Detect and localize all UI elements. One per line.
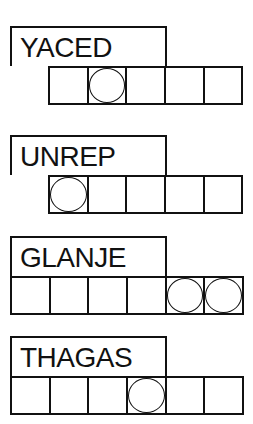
cell-letter (50, 177, 87, 212)
cell-letter (205, 68, 242, 103)
scrambled-word-box: YACED (10, 26, 167, 66)
answer-cell[interactable] (89, 177, 128, 212)
scrambled-word-box: GLANJE (10, 236, 167, 276)
answer-cell[interactable] (51, 278, 90, 313)
answer-cell[interactable] (167, 378, 206, 413)
answer-cell[interactable] (12, 378, 51, 413)
scrambled-word: UNREP (12, 137, 165, 177)
cell-letter (166, 68, 203, 103)
answer-cell-circled[interactable] (205, 278, 244, 313)
answer-cells (48, 66, 243, 105)
scrambled-word: THAGAS (12, 338, 165, 378)
answer-cell[interactable] (89, 378, 128, 413)
cell-letter (128, 378, 165, 413)
answer-cells (10, 276, 244, 315)
answer-cell[interactable] (89, 278, 128, 313)
answer-cell[interactable] (205, 378, 244, 413)
answer-cell[interactable] (128, 278, 167, 313)
answer-cell-circled[interactable] (89, 68, 128, 103)
answer-cell-circled[interactable] (167, 278, 206, 313)
answer-cell[interactable] (50, 68, 89, 103)
answer-cell[interactable] (12, 278, 51, 313)
answer-cell[interactable] (166, 68, 205, 103)
answer-cells (10, 376, 244, 415)
scrambled-word-box: THAGAS (10, 336, 167, 376)
scrambled-word: YACED (12, 28, 165, 68)
cell-letter (12, 278, 49, 313)
answer-cell[interactable] (127, 68, 166, 103)
cell-letter (127, 68, 164, 103)
cell-letter (167, 278, 204, 313)
answer-cell-circled[interactable] (50, 177, 89, 212)
cell-letter (166, 177, 203, 212)
answer-cell-circled[interactable] (128, 378, 167, 413)
scrambled-word-box: UNREP (10, 135, 167, 175)
cell-letter (205, 378, 242, 413)
cell-letter (89, 378, 126, 413)
cell-letter (167, 378, 204, 413)
answer-cell[interactable] (127, 177, 166, 212)
cell-letter (127, 177, 164, 212)
cell-letter (51, 378, 88, 413)
answer-cell[interactable] (205, 68, 244, 103)
scrambled-word: GLANJE (12, 238, 165, 278)
cell-letter (89, 68, 126, 103)
cell-letter (205, 278, 242, 313)
answer-cells (48, 175, 243, 214)
cell-letter (205, 177, 242, 212)
answer-cell[interactable] (51, 378, 90, 413)
cell-letter (51, 278, 88, 313)
cell-letter (12, 378, 49, 413)
cell-letter (50, 68, 87, 103)
cell-letter (128, 278, 165, 313)
cell-letter (89, 177, 126, 212)
answer-cell[interactable] (205, 177, 244, 212)
cell-letter (89, 278, 126, 313)
answer-cell[interactable] (166, 177, 205, 212)
